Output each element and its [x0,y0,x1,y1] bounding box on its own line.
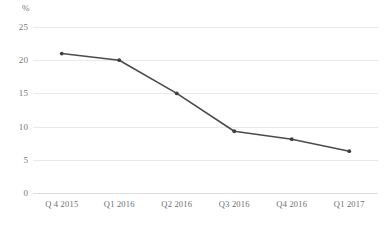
x-tick-label-1: Q1 2016 [104,200,135,209]
data-series-line [33,27,378,193]
plot-area [33,27,378,193]
x-tick-label-2: Q2 2016 [161,200,192,209]
data-point-5 [347,149,351,153]
y-axis: % 0510152025 [0,0,33,226]
data-point-1 [117,58,121,62]
line-chart: % 0510152025 Q 4 2015Q1 2016Q2 2016Q3 20… [0,0,390,226]
data-point-0 [60,52,64,56]
series-polyline [62,54,350,152]
x-tick-label-0: Q 4 2015 [45,200,78,209]
y-tick-label-20: 20 [19,56,28,65]
data-point-2 [175,92,179,96]
x-tick-label-4: Q4 2016 [276,200,307,209]
y-axis-unit-label: % [22,4,30,13]
y-tick-label-25: 25 [19,23,28,32]
x-axis: Q 4 2015Q1 2016Q2 2016Q3 2016Q4 2016Q1 2… [33,200,378,220]
x-tick-label-3: Q3 2016 [219,200,250,209]
gridline-0 [33,193,378,194]
y-tick-label-15: 15 [19,89,28,98]
data-point-4 [290,137,294,141]
y-tick-label-5: 5 [23,155,28,164]
y-tick-label-0: 0 [23,189,28,198]
x-tick-label-5: Q1 2017 [334,200,365,209]
data-point-3 [232,129,236,133]
y-tick-label-10: 10 [19,122,28,131]
